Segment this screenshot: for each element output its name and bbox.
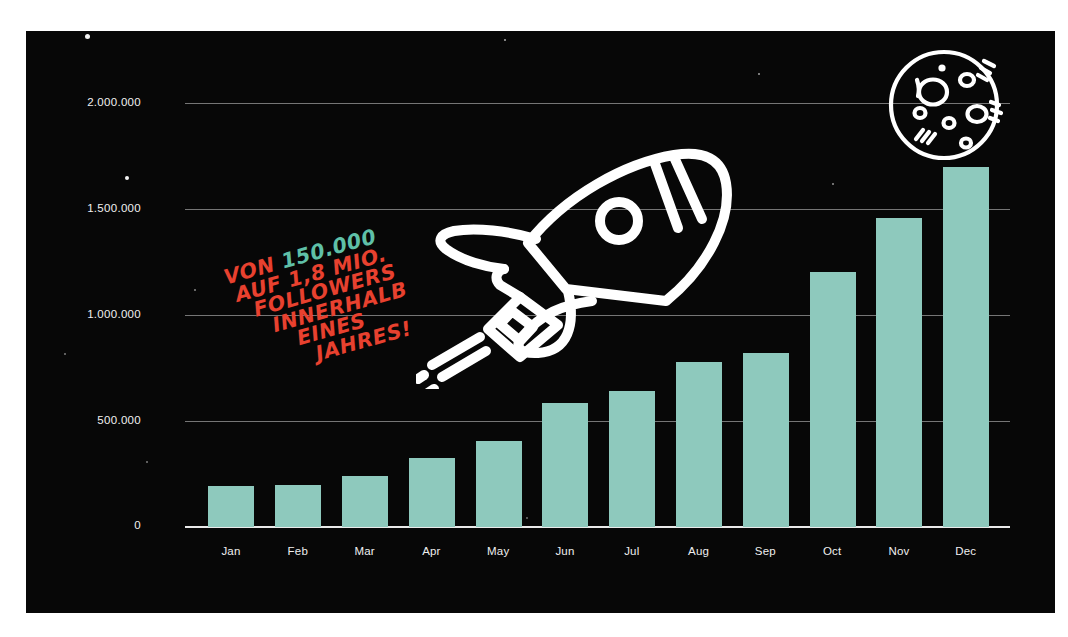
- bar-feb: [275, 485, 321, 527]
- x-axis-tick-label-jan: Jan: [198, 545, 264, 557]
- moon-icon: [881, 42, 1007, 168]
- bar-oct: [810, 272, 856, 527]
- bar-nov: [876, 218, 922, 527]
- x-axis-tick-label-dec: Dec: [933, 545, 999, 557]
- x-axis-tick-label-jun: Jun: [532, 545, 598, 557]
- x-axis-tick-label-sep: Sep: [732, 545, 798, 557]
- bar-jun: [542, 403, 588, 527]
- bar-jan: [208, 486, 254, 527]
- x-axis-tick-label-nov: Nov: [866, 545, 932, 557]
- x-axis-tick-label-feb: Feb: [265, 545, 331, 557]
- bar-mar: [342, 476, 388, 527]
- x-axis-tick-label-apr: Apr: [398, 545, 464, 557]
- bar-sep: [743, 353, 789, 527]
- rocket-icon: [416, 139, 746, 389]
- bar-jul: [609, 391, 655, 527]
- x-axis-tick-label-oct: Oct: [799, 545, 865, 557]
- x-axis-tick-label-jul: Jul: [599, 545, 665, 557]
- bar-apr: [409, 458, 455, 527]
- bar-dec: [943, 167, 989, 527]
- poster-canvas: 2.000.000 1.500.000 1.000.000 500.000 0 …: [26, 31, 1055, 613]
- bar-may: [476, 441, 522, 527]
- x-axis-tick-label-may: May: [465, 545, 531, 557]
- x-axis-tick-label-aug: Aug: [666, 545, 732, 557]
- x-axis-tick-label-mar: Mar: [332, 545, 398, 557]
